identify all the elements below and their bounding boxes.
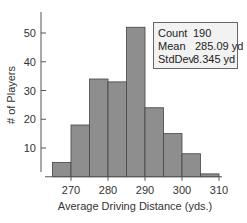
stats-count-label: Count xyxy=(158,27,187,39)
histogram-bar xyxy=(53,162,72,176)
y-tick-label: 20 xyxy=(24,113,36,125)
y-ticks-group: 1020304050 xyxy=(24,27,46,154)
y-tick-label: 10 xyxy=(24,142,36,154)
y-tick-label: 40 xyxy=(24,56,36,68)
histogram-bar xyxy=(90,79,109,177)
stats-count-value: 190 xyxy=(193,27,211,39)
histogram-bar xyxy=(164,134,183,177)
histogram-bar xyxy=(127,27,146,177)
x-tick-label: 310 xyxy=(210,184,228,196)
y-axis-title: # of Players xyxy=(5,65,17,124)
histogram-bar xyxy=(145,108,164,177)
stats-mean-value: 285.09 yd xyxy=(195,40,243,52)
x-axis-title: Average Driving Distance (yds.) xyxy=(58,200,212,212)
histogram-bar xyxy=(71,125,90,177)
y-tick-label: 50 xyxy=(24,27,36,39)
y-tick-label: 30 xyxy=(24,85,36,97)
x-ticks-group: 270280290300310 xyxy=(62,177,228,196)
x-tick-label: 290 xyxy=(136,184,154,196)
stats-stddev-value: 8.345 yd xyxy=(193,53,235,65)
stats-stddev-label: StdDev xyxy=(158,53,195,65)
stats-box: Count 190 Mean 285.09 yd StdDev 8.345 yd xyxy=(154,23,244,69)
x-tick-label: 270 xyxy=(62,184,80,196)
histogram-chart: 1020304050 270280290300310 Average Drivi… xyxy=(0,0,247,223)
x-tick-label: 280 xyxy=(99,184,117,196)
x-tick-label: 300 xyxy=(173,184,191,196)
histogram-bar xyxy=(108,82,127,177)
histogram-bar xyxy=(182,154,201,177)
stats-mean-label: Mean xyxy=(158,40,186,52)
